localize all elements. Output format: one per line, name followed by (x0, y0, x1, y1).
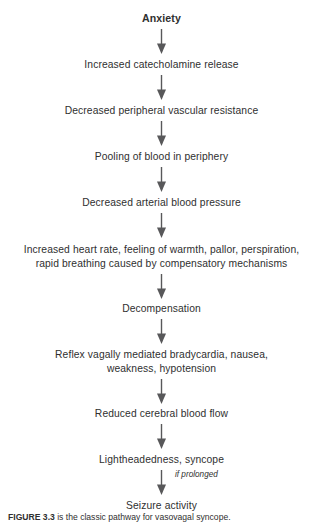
flow-node-label: Seizure activity (126, 500, 197, 511)
flow-node-anxiety: Anxiety (0, 12, 323, 26)
flow-node-lightheadedness-syncope: Lightheadedness, syncope (0, 453, 323, 467)
flow-node-label: Decreased peripheral vascular resistance (65, 105, 259, 116)
flow-node-decreased-arterial-blood-pressure: Decreased arterial blood pressure (0, 196, 323, 210)
flow-node-decompensation: Decompensation (0, 302, 323, 316)
flow-node-label: Decreased arterial blood pressure (82, 197, 241, 208)
flowchart-diagram: Anxiety Increased catecholamine release … (0, 0, 323, 522)
flow-node-increased-heart-rate-compensatory: Increased heart rate, feeling of warmth,… (0, 243, 323, 270)
figure-caption: FIGURE 3.3 is the classic pathway for va… (8, 512, 316, 522)
flow-node-increased-catecholamine-release: Increased catecholamine release (0, 58, 323, 72)
flow-node-label-line1: Reflex vagally mediated bradycardia, nau… (0, 348, 323, 362)
flow-node-label: Reduced cerebral blood flow (95, 408, 228, 419)
edge-label-if-prolonged: if prolonged (175, 470, 218, 479)
flow-node-reflex-vagally-mediated-bradycardia: Reflex vagally mediated bradycardia, nau… (0, 348, 323, 375)
flow-node-label: Lightheadedness, syncope (99, 454, 224, 465)
flow-node-reduced-cerebral-blood-flow: Reduced cerebral blood flow (0, 407, 323, 421)
flow-node-decreased-peripheral-vascular-resistance: Decreased peripheral vascular resistance (0, 104, 323, 118)
flow-node-label-line2: weakness, hypotension (0, 362, 323, 376)
flow-node-label: Pooling of blood in periphery (95, 151, 229, 162)
flow-node-label: Anxiety (142, 12, 181, 24)
figure-number: FIGURE 3.3 (8, 512, 55, 522)
flow-node-seizure-activity: Seizure activity (0, 499, 323, 513)
flow-node-label: Decompensation (122, 303, 201, 314)
flow-node-label-line2: rapid breathing caused by compensatory m… (0, 257, 323, 271)
flow-node-label: Increased catecholamine release (84, 59, 238, 70)
flow-node-pooling-of-blood-in-periphery: Pooling of blood in periphery (0, 150, 323, 164)
figure-caption-text: is the classic pathway for vasovagal syn… (55, 512, 231, 522)
flow-node-label-line1: Increased heart rate, feeling of warmth,… (0, 243, 323, 257)
